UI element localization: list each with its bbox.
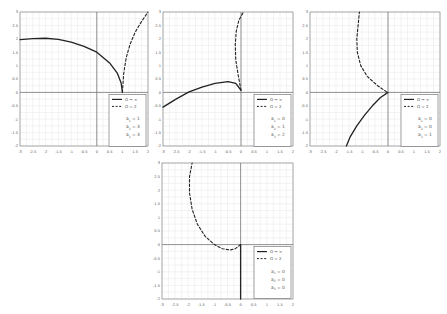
svg-text:0.5: 0.5	[155, 77, 161, 81]
svg-text:-2.5: -2.5	[172, 303, 179, 307]
svg-text:Ω → ∞: Ω → ∞	[270, 97, 282, 102]
svg-text:-0.5: -0.5	[80, 150, 87, 154]
svg-text:1: 1	[266, 303, 268, 307]
svg-text:1.5: 1.5	[154, 202, 160, 206]
svg-text:0.5: 0.5	[251, 150, 257, 154]
svg-text:1.5: 1.5	[277, 303, 283, 307]
svg-text:-1: -1	[69, 150, 73, 154]
svg-text:-2.5: -2.5	[319, 150, 326, 154]
svg-text:1: 1	[158, 216, 160, 220]
svg-text:1: 1	[16, 64, 18, 68]
svg-text:2: 2	[16, 37, 18, 41]
svg-text:-0.5: -0.5	[301, 104, 308, 108]
svg-text:2.5: 2.5	[155, 24, 161, 28]
svg-text:-3: -3	[308, 150, 312, 154]
svg-text:0.5: 0.5	[251, 303, 257, 307]
svg-text:1.5: 1.5	[12, 51, 18, 55]
series-omega-2	[190, 163, 241, 250]
svg-text:-2.5: -2.5	[172, 150, 179, 154]
svg-text:-1.5: -1.5	[153, 284, 160, 288]
chart-panel-bottom-center: -3-2.5-2-1.5-1-0.500.511.52-2-1.5-1-0.50…	[144, 161, 295, 313]
svg-text:0.5: 0.5	[302, 77, 308, 81]
svg-text:1: 1	[413, 150, 415, 154]
svg-text:-1.5: -1.5	[198, 303, 205, 307]
svg-text:1: 1	[159, 64, 161, 68]
svg-text:Ω = 2: Ω = 2	[417, 104, 429, 109]
svg-text:2: 2	[292, 303, 294, 307]
svg-text:-2: -2	[157, 144, 161, 148]
chart-panel-top-right: -3-2.5-2-1.5-1-0.500.511.52-2-1.5-1-0.50…	[292, 10, 442, 160]
svg-text:-1: -1	[213, 150, 217, 154]
svg-text:1.5: 1.5	[424, 150, 430, 154]
svg-text:0.5: 0.5	[107, 150, 113, 154]
svg-text:-0.5: -0.5	[11, 104, 18, 108]
svg-text:-1.5: -1.5	[11, 131, 18, 135]
svg-text:3: 3	[159, 10, 161, 14]
svg-text:1.5: 1.5	[132, 150, 138, 154]
svg-text:Ω = 2: Ω = 2	[125, 104, 137, 109]
svg-text:-1: -1	[156, 270, 160, 274]
svg-text:-1.5: -1.5	[301, 131, 308, 135]
svg-text:-2: -2	[334, 150, 338, 154]
svg-text:-1: -1	[304, 118, 308, 122]
svg-text:0: 0	[240, 150, 243, 154]
svg-text:0: 0	[96, 150, 99, 154]
svg-text:Ω → ∞: Ω → ∞	[270, 249, 282, 254]
series-omega-2	[357, 12, 387, 92]
svg-text:-0.5: -0.5	[154, 104, 161, 108]
svg-text:0.5: 0.5	[398, 150, 404, 154]
svg-text:-0.5: -0.5	[153, 257, 160, 261]
svg-text:0: 0	[306, 91, 309, 95]
svg-text:Ω → ∞: Ω → ∞	[417, 97, 429, 102]
svg-text:-2.5: -2.5	[29, 150, 36, 154]
svg-text:-2: -2	[186, 303, 190, 307]
svg-text:2: 2	[159, 37, 161, 41]
series-omega-2	[235, 12, 243, 90]
svg-text:-1: -1	[360, 150, 364, 154]
chart-panel-top-middle: -3-2.5-2-1.5-1-0.500.511.52-2-1.5-1-0.50…	[145, 10, 295, 160]
svg-text:0.5: 0.5	[12, 77, 18, 81]
svg-text:2: 2	[306, 37, 308, 41]
svg-text:1.5: 1.5	[277, 150, 283, 154]
svg-text:-0.5: -0.5	[224, 303, 231, 307]
svg-text:3: 3	[306, 10, 308, 14]
svg-text:0: 0	[158, 243, 161, 247]
chart-panel-top-left: -3-2.5-2-1.5-1-0.500.511.52-2-1.5-1-0.50…	[2, 10, 150, 160]
svg-text:0: 0	[159, 91, 162, 95]
svg-text:-1: -1	[157, 118, 161, 122]
svg-text:2: 2	[158, 189, 160, 193]
svg-text:-0.5: -0.5	[371, 150, 378, 154]
svg-text:Ω → ∞: Ω → ∞	[125, 97, 137, 102]
svg-text:-2: -2	[156, 297, 160, 301]
svg-text:2.5: 2.5	[154, 175, 160, 179]
svg-text:2.5: 2.5	[302, 24, 308, 28]
svg-text:0: 0	[16, 91, 19, 95]
svg-text:Ω = 2: Ω = 2	[270, 104, 282, 109]
svg-text:2.5: 2.5	[12, 24, 18, 28]
svg-text:-3: -3	[160, 303, 164, 307]
svg-text:-1.5: -1.5	[198, 150, 205, 154]
svg-text:-1.5: -1.5	[154, 131, 161, 135]
svg-text:-2: -2	[14, 144, 18, 148]
svg-text:1: 1	[306, 64, 308, 68]
svg-text:-1.5: -1.5	[55, 150, 62, 154]
svg-text:1: 1	[266, 150, 268, 154]
svg-text:1.5: 1.5	[155, 51, 161, 55]
svg-text:3: 3	[158, 161, 160, 165]
svg-text:-1: -1	[14, 118, 18, 122]
svg-text:1: 1	[121, 150, 123, 154]
svg-text:-1: -1	[213, 303, 217, 307]
svg-text:2: 2	[439, 150, 441, 154]
svg-text:-3: -3	[161, 150, 165, 154]
svg-text:0: 0	[239, 303, 242, 307]
svg-text:-3: -3	[18, 150, 22, 154]
svg-text:-2: -2	[304, 144, 308, 148]
svg-text:-2: -2	[187, 150, 191, 154]
svg-text:0: 0	[387, 150, 390, 154]
svg-text:0.5: 0.5	[154, 229, 160, 233]
svg-text:-0.5: -0.5	[224, 150, 231, 154]
svg-text:-2: -2	[44, 150, 48, 154]
svg-text:3: 3	[16, 10, 18, 14]
svg-text:1.5: 1.5	[302, 51, 308, 55]
svg-text:-1.5: -1.5	[345, 150, 352, 154]
